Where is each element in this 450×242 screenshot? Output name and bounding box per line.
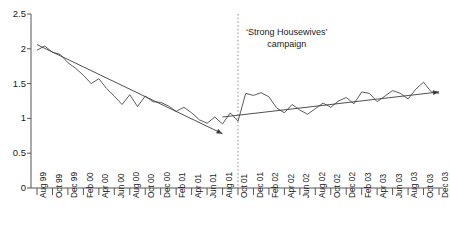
x-tick-label: Oct 99: [56, 174, 64, 198]
x-tick-label: Oct 01: [241, 174, 249, 198]
y-tick-label: 2.5: [0, 9, 26, 19]
x-tick-label: Jun 03: [396, 173, 404, 198]
y-axis-ticks: [27, 14, 31, 188]
y-tick-label: 0: [0, 183, 26, 193]
x-tick-label: Oct 03: [427, 174, 435, 198]
y-tick-label: 1.5: [0, 79, 26, 89]
x-tick-label: Aug 99: [40, 172, 48, 198]
x-tick-label: Aug 03: [411, 172, 419, 198]
line-chart: 00.511.522.5 Aug 99Oct 99Dec 99Feb 00Apr…: [0, 0, 450, 242]
x-tick-label: Oct 00: [148, 174, 156, 198]
plot-area: [0, 0, 450, 242]
y-tick-label: 2: [0, 44, 26, 54]
x-tick-label: Dec 03: [442, 172, 450, 198]
x-tick-label: Feb 02: [272, 173, 280, 199]
x-tick-label: Feb 03: [365, 173, 373, 199]
x-tick-label: Apr 02: [288, 174, 296, 198]
x-tick-label: Aug 02: [319, 172, 327, 198]
campaign-annotation-line1: ‘Strong Housewives’: [246, 26, 328, 38]
x-tick-label: Feb 00: [87, 173, 95, 199]
x-tick-label: Jun 02: [303, 173, 311, 198]
x-tick-label: Dec 99: [71, 172, 79, 198]
x-tick-label: Aug 00: [133, 172, 141, 198]
x-tick-label: Apr 03: [380, 174, 388, 198]
y-tick-label: 1: [0, 113, 26, 123]
x-tick-label: Dec 02: [349, 172, 357, 198]
x-tick-label: Feb 01: [179, 173, 187, 199]
x-tick-label: Jun 01: [210, 173, 218, 198]
x-tick-label: Oct 02: [334, 174, 342, 198]
x-tick-label: Jun 00: [118, 173, 126, 198]
x-tick-label: Dec 00: [164, 172, 172, 198]
x-tick-label: Apr 01: [195, 174, 203, 198]
axes: [27, 14, 443, 195]
campaign-annotation-line2: campaign: [246, 38, 328, 50]
x-tick-label: Apr 00: [102, 174, 110, 198]
y-tick-label: 0.5: [0, 148, 26, 158]
x-tick-label: Aug 01: [226, 172, 234, 198]
x-tick-label: Dec 01: [257, 172, 265, 198]
campaign-annotation: ‘Strong Housewives’ campaign: [246, 26, 328, 50]
